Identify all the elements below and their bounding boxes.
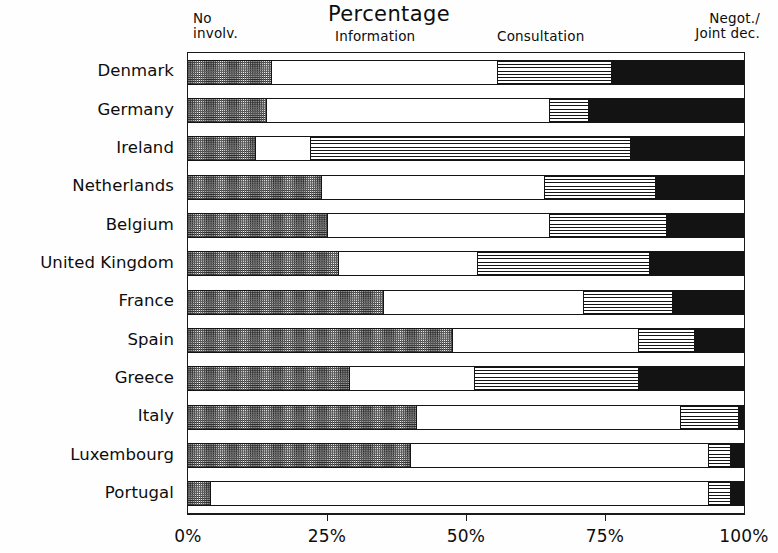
bar-segment [188, 175, 321, 200]
bar-segment [497, 60, 611, 85]
bar-segment [188, 481, 210, 506]
y-axis-label: Spain [0, 331, 182, 349]
bar-segment [321, 175, 543, 200]
bar-segment [188, 136, 255, 161]
bar-row [188, 443, 744, 468]
bar-row [188, 251, 744, 276]
bar-segment [544, 175, 655, 200]
bar-row [188, 136, 744, 161]
y-axis-label: Germany [0, 101, 182, 119]
bar-segment [188, 98, 266, 123]
y-axis-label: Italy [0, 407, 182, 425]
bars-layer [188, 53, 744, 513]
y-axis-label: France [0, 292, 182, 310]
x-axis-tick-label: 0% [174, 526, 201, 546]
legend-entry-information: Information [335, 29, 415, 44]
y-axis-label: Belgium [0, 216, 182, 234]
bar-segment [188, 251, 338, 276]
bar-segment [188, 60, 271, 85]
bar-segment [188, 290, 383, 315]
bar-row [188, 481, 744, 506]
legend-entry-negot-joint-dec: Negot./ Joint dec. [660, 11, 760, 41]
x-axis-tick [466, 514, 467, 521]
bar-segment [188, 213, 327, 238]
bar-segment [327, 213, 549, 238]
x-axis-tick-label: 25% [308, 526, 346, 546]
chart-header: Percentage No involv. Information Consul… [0, 0, 778, 52]
bar-segment [611, 60, 744, 85]
bar-row [188, 366, 744, 391]
bar-segment [477, 251, 649, 276]
bar-segment [672, 290, 744, 315]
bar-segment [474, 366, 638, 391]
bar-segment [583, 290, 672, 315]
bar-segment [730, 443, 744, 468]
bar-segment [680, 405, 738, 430]
legend-entry-no-involv-line2: involv. [193, 26, 238, 41]
bar-segment [188, 443, 410, 468]
y-axis-label: Netherlands [0, 177, 182, 195]
bar-segment [666, 213, 744, 238]
y-axis-label: Luxembourg [0, 446, 182, 464]
bar-segment [730, 481, 744, 506]
bar-segment [255, 136, 311, 161]
bar-segment [310, 136, 630, 161]
x-axis-tick [327, 514, 328, 521]
bar-segment [655, 175, 744, 200]
bar-segment [549, 213, 666, 238]
bar-segment [708, 443, 730, 468]
legend-entry-negot-line2: Joint dec. [660, 26, 760, 41]
x-axis-tick-label: 75% [586, 526, 624, 546]
bar-segment [349, 366, 474, 391]
y-axis-label: Greece [0, 369, 182, 387]
bar-segment [188, 405, 416, 430]
bar-row [188, 405, 744, 430]
legend-entry-negot-line1: Negot./ [709, 10, 760, 26]
bar-segment [338, 251, 477, 276]
legend-entry-no-involv: No involv. [193, 11, 238, 41]
bar-segment [649, 251, 744, 276]
bar-row [188, 98, 744, 123]
y-axis-label: Ireland [0, 139, 182, 157]
x-axis: 0%25%50%75%100% [187, 514, 745, 553]
bar-segment [694, 328, 744, 353]
bar-segment [410, 443, 707, 468]
x-axis-tick-label: 50% [447, 526, 485, 546]
bar-segment [188, 328, 452, 353]
y-axis-label: Portugal [0, 484, 182, 502]
bar-segment [383, 290, 583, 315]
bar-row [188, 290, 744, 315]
legend-entry-consultation: Consultation [497, 29, 584, 44]
bar-segment [210, 481, 708, 506]
bar-segment [630, 136, 744, 161]
bar-segment [188, 366, 349, 391]
bar-segment [588, 98, 744, 123]
bar-segment [708, 481, 730, 506]
y-axis-category-labels: DenmarkGermanyIrelandNetherlandsBelgiumU… [0, 52, 182, 512]
bar-row [188, 328, 744, 353]
bar-segment [416, 405, 680, 430]
bar-row [188, 213, 744, 238]
bar-segment [271, 60, 496, 85]
bar-segment [549, 98, 588, 123]
bar-row [188, 60, 744, 85]
bar-segment [638, 366, 744, 391]
bar-segment [266, 98, 550, 123]
bar-segment [452, 328, 638, 353]
bar-segment [738, 405, 744, 430]
legend-entry-no-involv-line1: No [193, 10, 212, 26]
y-axis-label: Denmark [0, 62, 182, 80]
stacked-bar-chart: Percentage No involv. Information Consul… [0, 0, 778, 553]
y-axis-label: United Kingdom [0, 254, 182, 272]
x-axis-tick-label: 100% [719, 526, 768, 546]
x-axis-tick [605, 514, 606, 521]
bar-row [188, 175, 744, 200]
bar-segment [638, 328, 694, 353]
